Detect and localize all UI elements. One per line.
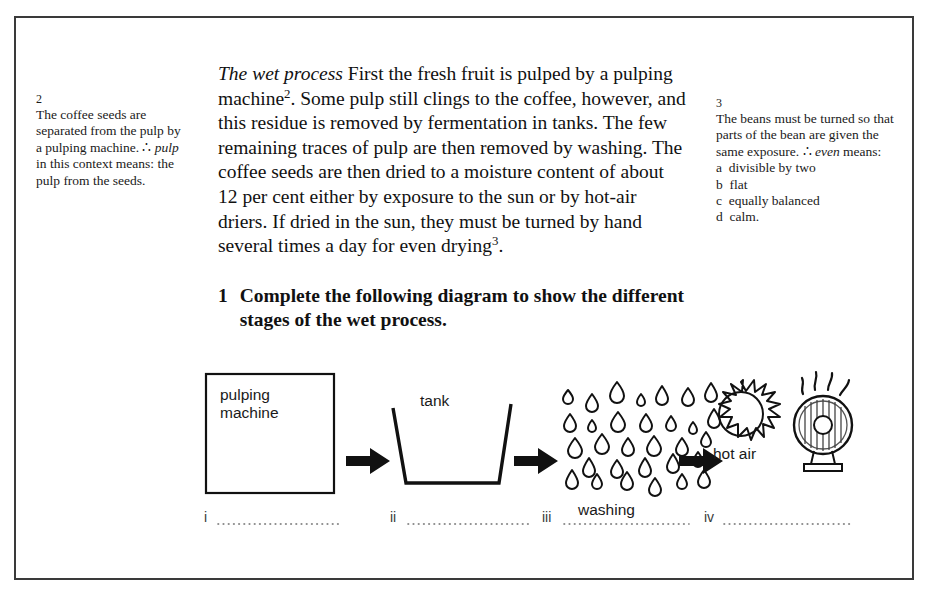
answer-roman-ii: ii xyxy=(390,509,396,525)
tank-trapezoid-icon xyxy=(393,404,511,483)
margin-note-left-number: 2 xyxy=(36,92,188,106)
body-text-part-3: . xyxy=(498,235,503,256)
margin-note-option-d: d calm. xyxy=(716,209,906,225)
hot-air-drier-icon xyxy=(794,372,852,471)
margin-note-left-body: The coffee seeds are separated from the … xyxy=(36,107,188,189)
exercise-instruction: 1 Complete the following diagram to show… xyxy=(218,284,688,332)
body-text-part-2: . Some pulp still clings to the coffee, … xyxy=(218,88,686,257)
pulping-machine-label-line2: machine xyxy=(220,404,279,421)
margin-note-option-a: a divisible by two xyxy=(716,160,906,176)
answer-roman-i: i xyxy=(204,509,207,525)
margin-note-right-body: The beans must be turned so that parts o… xyxy=(716,111,906,160)
stage-washing xyxy=(563,382,720,496)
margin-note-option-b: b flat xyxy=(716,177,906,193)
main-text-column: The wet process First the fresh fruit is… xyxy=(218,62,686,259)
margin-note-option-c: c equally balanced xyxy=(716,193,906,209)
stage-pulping-machine: pulping machine xyxy=(206,374,334,493)
margin-note-right: 3 The beans must be turned so that parts… xyxy=(716,96,906,226)
margin-note-right-italic-term: even xyxy=(815,144,840,159)
margin-note-left: 2 The coffee seeds are separated from th… xyxy=(36,92,188,189)
hot-air-label: hot air xyxy=(713,445,756,462)
wet-process-diagram: pulping machine tank xyxy=(14,352,914,552)
water-droplets-icon xyxy=(563,382,720,496)
answer-line-i[interactable]: i xyxy=(204,509,342,525)
margin-note-right-text-after: means: xyxy=(840,144,882,159)
arrow-right-icon-2 xyxy=(514,448,558,474)
exercise-number: 1 xyxy=(218,284,228,332)
pulping-machine-label-line1: pulping xyxy=(220,386,270,403)
stage-tank: tank xyxy=(393,392,511,483)
body-paragraph: The wet process First the fresh fruit is… xyxy=(218,62,686,259)
answer-roman-iv: iv xyxy=(704,509,714,525)
sun-icon xyxy=(719,380,780,440)
washing-label: washing xyxy=(577,501,635,518)
tank-label: tank xyxy=(420,392,450,409)
margin-note-left-text-after: in this context means: the pulp from the… xyxy=(36,156,174,187)
answer-roman-iii: iii xyxy=(542,509,551,525)
stage-hot-air: hot air xyxy=(713,372,852,471)
margin-note-left-italic-term: pulp xyxy=(155,140,179,155)
exercise-text: Complete the following diagram to show t… xyxy=(240,284,688,332)
answer-line-iv[interactable]: iv xyxy=(704,509,852,525)
answer-line-ii[interactable]: ii xyxy=(390,509,532,525)
arrow-right-icon-1 xyxy=(346,448,390,474)
margin-note-right-number: 3 xyxy=(716,96,906,110)
body-heading-italic: The wet process xyxy=(218,63,343,84)
